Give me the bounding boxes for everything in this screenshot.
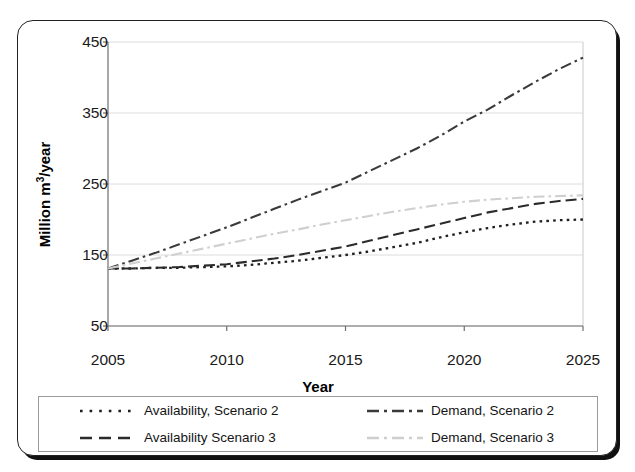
x-tick-label: 2020 (447, 351, 481, 369)
legend-item[interactable]: Demand, Scenario 3 (318, 430, 597, 445)
chart-legend: Availability, Scenario 2Demand, Scenario… (38, 396, 598, 452)
legend-item-label: Demand, Scenario 2 (431, 403, 554, 418)
plot-area: 50150250350450 20052010201520202025 Mill… (18, 21, 618, 457)
legend-item-label: Demand, Scenario 3 (431, 430, 554, 445)
legend-swatch-dashed-icon (79, 432, 137, 444)
y-axis-title-pre: Million m (36, 182, 53, 247)
y-axis-title-post: /year (36, 142, 53, 177)
legend-item[interactable]: Availability Scenario 3 (39, 430, 318, 445)
legend-item[interactable]: Demand, Scenario 2 (318, 403, 597, 418)
x-tick-label: 2010 (210, 351, 244, 369)
x-tick-label: 2005 (91, 351, 125, 369)
y-axis-title: Million m3/year (36, 85, 53, 305)
legend-item[interactable]: Availability, Scenario 2 (39, 403, 318, 418)
x-axis-title: Year (18, 378, 618, 395)
x-tick-label: 2015 (328, 351, 362, 369)
figure-root: 50150250350450 20052010201520202025 Mill… (0, 0, 635, 472)
legend-item-label: Availability, Scenario 2 (144, 403, 279, 418)
legend-item-label: Availability Scenario 3 (144, 430, 276, 445)
legend-swatch-dash-dot-icon (366, 432, 424, 444)
y-axis-title-exponent: 3 (35, 177, 46, 183)
legend-swatch-dash-dot-icon (366, 405, 424, 417)
chart-frame: 50150250350450 20052010201520202025 Mill… (17, 20, 617, 456)
x-tick-label: 2025 (566, 351, 600, 369)
legend-swatch-dotted-icon (79, 405, 137, 417)
